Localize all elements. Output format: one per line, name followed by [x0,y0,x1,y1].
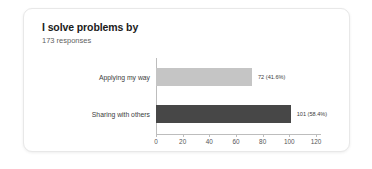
bar-applying-my-way[interactable]: 72 (41.6%) [156,68,252,86]
x-axis-tick-label: 20 [179,138,186,145]
bar-value-label: 72 (41.6%) [258,74,285,80]
screenshot-root: I solve problems by 173 responses Applyi… [0,0,372,169]
bar-chart: Applying my way 72 (41.6%) Sharing with … [24,49,351,153]
x-axis-tick-label: 120 [311,138,322,145]
x-axis-tick-label: 60 [232,138,239,145]
x-axis-tick-label: 0 [154,138,158,145]
x-axis-tick [183,134,184,137]
x-axis-tick [289,134,290,137]
x-axis-tick [156,134,157,137]
bar-category-label: Sharing with others [92,111,150,118]
x-axis-tick-label: 100 [284,138,295,145]
x-axis-tick [236,134,237,137]
x-axis-tick-label: 40 [206,138,213,145]
survey-result-card: I solve problems by 173 responses Applyi… [23,8,350,152]
x-axis-tick-label: 80 [259,138,266,145]
bar-sharing-with-others[interactable]: 101 (58.4%) [156,105,291,123]
bar-value-label: 101 (58.4%) [297,111,327,117]
bar-row: Applying my way 72 (41.6%) [156,68,316,86]
x-axis-tick [209,134,210,137]
bar-row: Sharing with others 101 (58.4%) [156,105,316,123]
x-axis-line [156,134,321,135]
bar-category-label: Applying my way [99,74,150,81]
response-count: 173 responses [42,36,91,45]
x-axis-tick [316,134,317,137]
page-title: I solve problems by [42,21,138,33]
x-axis-tick [263,134,264,137]
